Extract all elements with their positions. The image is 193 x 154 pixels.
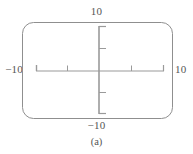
viewing-window-graphic [0, 0, 193, 154]
calculator-viewing-window-figure: 10 −10 10 −10 (a) [0, 0, 193, 154]
figure-caption: (a) [0, 136, 193, 147]
